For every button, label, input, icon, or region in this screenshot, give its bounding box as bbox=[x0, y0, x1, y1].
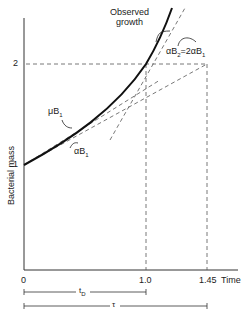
tau-label: τ bbox=[112, 301, 115, 309]
td-label: tD bbox=[79, 287, 86, 297]
alpha-b1-label: αB1 bbox=[74, 146, 89, 160]
x-tick-1: 1.0 bbox=[139, 276, 152, 285]
y-tick-2: 2 bbox=[13, 59, 18, 68]
y-tick-1: 1 bbox=[13, 160, 18, 169]
mu-b1-label: μB1 bbox=[48, 106, 63, 120]
alpha-b2-label: αB2=2αB1 bbox=[166, 46, 205, 60]
observed-growth-label: Observed growth bbox=[110, 7, 149, 27]
x-tick-145: 1.45 bbox=[199, 276, 217, 285]
x-axis-label: Time bbox=[221, 276, 241, 285]
chart-canvas bbox=[0, 0, 250, 314]
mu-pointer bbox=[62, 120, 72, 128]
ab2-pointer bbox=[178, 38, 196, 46]
x-tick-0: 0 bbox=[21, 276, 26, 285]
y-axis-label: Bacterial mass bbox=[6, 146, 16, 205]
alpha-b2-line bbox=[110, 8, 185, 140]
